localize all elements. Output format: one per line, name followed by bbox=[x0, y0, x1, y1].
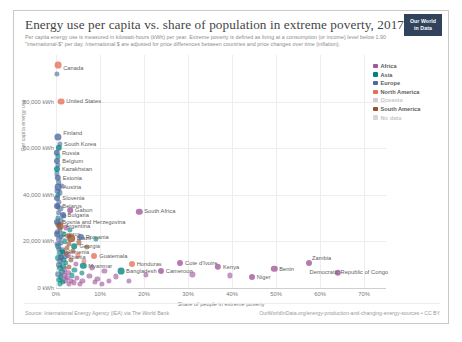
gridline-horizontal bbox=[56, 288, 386, 289]
data-point-label: Austria bbox=[63, 184, 81, 190]
data-point-unlabeled[interactable] bbox=[113, 274, 118, 279]
gridline-horizontal bbox=[56, 241, 386, 242]
data-point[interactable] bbox=[58, 254, 64, 260]
y-axis-title: Per capita energy use bbox=[20, 99, 26, 151]
data-point[interactable] bbox=[54, 166, 60, 172]
data-point[interactable] bbox=[54, 195, 60, 201]
data-point-label: Canada bbox=[63, 65, 83, 71]
data-point-unlabeled[interactable] bbox=[100, 281, 105, 286]
data-point-unlabeled[interactable] bbox=[92, 279, 97, 284]
data-point-label: Myanmar bbox=[88, 263, 112, 269]
data-point[interactable] bbox=[158, 268, 164, 274]
data-point[interactable] bbox=[118, 268, 125, 275]
gridline-vertical bbox=[364, 55, 365, 288]
data-point[interactable] bbox=[78, 234, 84, 240]
y-axis-tick-label: 20,000 kWh bbox=[23, 238, 54, 244]
owid-logo-line2: in Data bbox=[404, 25, 442, 32]
gridline-vertical bbox=[276, 55, 277, 288]
data-point-unlabeled[interactable] bbox=[106, 278, 111, 283]
data-point[interactable] bbox=[136, 209, 142, 215]
data-point-label: Belgium bbox=[62, 158, 83, 164]
data-point-label: Estonia bbox=[63, 175, 82, 181]
data-point-label: Democratic Republic of Congo bbox=[310, 269, 389, 275]
data-point-label: South Korea bbox=[64, 141, 96, 147]
x-axis-tick-label: 20% bbox=[138, 291, 150, 297]
data-point-unlabeled[interactable] bbox=[57, 281, 62, 286]
y-axis-tick-label: 40,000 kWh bbox=[23, 192, 54, 198]
license-note[interactable]: OurWorldInData.org/energy-production-and… bbox=[259, 310, 440, 316]
x-axis-tick-label: 70% bbox=[358, 291, 370, 297]
data-point-label: Zambia bbox=[312, 255, 331, 261]
data-point-label: Russia bbox=[62, 150, 80, 156]
data-point[interactable] bbox=[68, 234, 76, 242]
data-point[interactable] bbox=[55, 62, 62, 69]
data-point-unlabeled[interactable] bbox=[126, 278, 131, 283]
data-point-label: United States bbox=[66, 98, 101, 104]
y-axis-tick-label: 80,000 kWh bbox=[23, 99, 54, 105]
owid-logo-line1: Our World bbox=[404, 18, 442, 25]
x-axis-tick-label: 0% bbox=[52, 291, 60, 297]
data-point-label: Kenya bbox=[223, 264, 239, 270]
legend-item-label: South America bbox=[381, 106, 421, 112]
data-point-unlabeled[interactable] bbox=[71, 280, 76, 285]
gridline-vertical bbox=[232, 55, 233, 288]
chart-subtitle: Per capita energy use is measured in kil… bbox=[25, 34, 413, 49]
data-point-unlabeled[interactable] bbox=[87, 273, 92, 278]
footer-divider bbox=[24, 303, 440, 304]
data-point-unlabeled[interactable] bbox=[54, 71, 59, 76]
data-point[interactable] bbox=[54, 158, 60, 164]
gridline-horizontal bbox=[56, 148, 386, 149]
data-point[interactable] bbox=[215, 264, 221, 270]
data-point-label: Kazakhstan bbox=[62, 166, 92, 172]
data-point-label: Romania bbox=[86, 234, 109, 240]
data-point-label: South Africa bbox=[144, 208, 175, 214]
data-point-label: Bangladesh bbox=[126, 268, 157, 274]
data-point-label: Honduras bbox=[137, 261, 162, 267]
gridline-vertical bbox=[144, 55, 145, 288]
data-point[interactable] bbox=[58, 98, 65, 105]
data-point[interactable] bbox=[55, 184, 62, 191]
data-point-label: Slovenia bbox=[62, 195, 84, 201]
data-point[interactable] bbox=[54, 203, 60, 209]
y-axis-tick-label: 0 kWh bbox=[38, 285, 54, 291]
owid-logo[interactable]: Our World in Data bbox=[404, 14, 442, 36]
data-point-label: Benin bbox=[279, 266, 294, 272]
x-axis-tick-label: 60% bbox=[314, 291, 326, 297]
screenshot-root: Energy use per capita vs. share of popul… bbox=[0, 0, 462, 342]
data-point-label: Niger bbox=[257, 274, 271, 280]
data-point-label: Guatemala bbox=[99, 253, 127, 259]
x-axis-tick-label: 30% bbox=[182, 291, 194, 297]
data-point-label: Finland bbox=[63, 130, 82, 136]
x-axis-tick-label: 10% bbox=[94, 291, 106, 297]
page-title: Energy use per capita vs. share of popul… bbox=[25, 17, 405, 32]
data-point[interactable] bbox=[55, 231, 61, 237]
data-point[interactable] bbox=[55, 133, 62, 140]
scatter-plot-area: Per capita energy use Share of people in… bbox=[56, 55, 386, 288]
data-point-label: Cote d'Ivoire bbox=[185, 260, 217, 266]
legend-item-label: North America bbox=[381, 89, 420, 95]
data-point[interactable] bbox=[57, 222, 64, 229]
data-point-label: Albania bbox=[66, 254, 85, 260]
x-axis-tick-label: 40% bbox=[226, 291, 238, 297]
data-point-unlabeled[interactable] bbox=[66, 281, 71, 286]
data-point[interactable] bbox=[129, 261, 135, 267]
gridline-horizontal bbox=[56, 195, 386, 196]
y-axis-tick-label: 60,000 kWh bbox=[23, 145, 54, 151]
gridline-vertical bbox=[320, 55, 321, 288]
data-point-unlabeled[interactable] bbox=[77, 282, 82, 287]
chart-card: Energy use per capita vs. share of popul… bbox=[13, 10, 449, 324]
gridline-horizontal bbox=[56, 102, 386, 103]
data-point-unlabeled[interactable] bbox=[102, 268, 107, 273]
data-point[interactable] bbox=[60, 212, 66, 218]
data-point[interactable] bbox=[91, 253, 97, 259]
data-point[interactable] bbox=[249, 274, 255, 280]
x-axis-title: Share of people in extreme poverty bbox=[56, 301, 386, 307]
data-point-label: Cameroon bbox=[166, 268, 193, 274]
data-point-label: Bulgaria bbox=[68, 212, 89, 218]
data-point[interactable] bbox=[80, 263, 86, 269]
x-axis-tick-label: 50% bbox=[270, 291, 282, 297]
data-point-unlabeled[interactable] bbox=[79, 270, 84, 275]
data-point-label: Argentina bbox=[65, 223, 90, 229]
data-point[interactable] bbox=[177, 260, 183, 266]
data-point-unlabeled[interactable] bbox=[74, 261, 79, 266]
